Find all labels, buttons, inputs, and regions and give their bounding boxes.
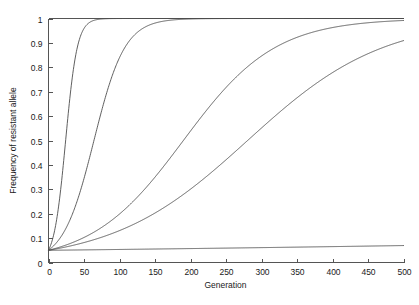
x-tick-label: 450 — [361, 267, 375, 277]
x-tick-label: 150 — [148, 267, 162, 277]
x-tick-label: 0 — [47, 267, 52, 277]
y-tick-label: 0.5 — [31, 137, 43, 147]
x-tick-label: 200 — [184, 267, 198, 277]
y-tick-label: 0.2 — [31, 210, 43, 220]
y-tick-label: 0.8 — [31, 63, 43, 73]
y-tick-label: 0.6 — [31, 112, 43, 122]
x-tick-label: 100 — [113, 267, 127, 277]
y-tick-label: 0.9 — [31, 39, 43, 49]
y-tick-label: 0.3 — [31, 185, 43, 195]
x-tick-label: 250 — [219, 267, 233, 277]
x-tick-label: 300 — [255, 267, 269, 277]
y-tick-label: 0.1 — [31, 234, 43, 244]
figure-container: 00.10.20.30.40.50.60.70.80.91 0501001502… — [0, 0, 419, 305]
x-tick-label: 500 — [397, 267, 411, 277]
x-tick-label: 50 — [80, 267, 90, 277]
x-tick-label: 400 — [326, 267, 340, 277]
x-axis-title: Generation — [204, 280, 246, 290]
y-tick-label: 0.4 — [31, 161, 43, 171]
y-tick-label: 0.7 — [31, 88, 43, 98]
y-tick-label: 0 — [38, 259, 43, 269]
line-chart: 00.10.20.30.40.50.60.70.80.91 0501001502… — [0, 0, 419, 305]
y-axis-title: Frequency of resistant allele — [8, 87, 18, 194]
x-tick-label: 350 — [290, 267, 304, 277]
chart-background — [0, 0, 419, 305]
y-tick-label: 1 — [38, 15, 43, 25]
